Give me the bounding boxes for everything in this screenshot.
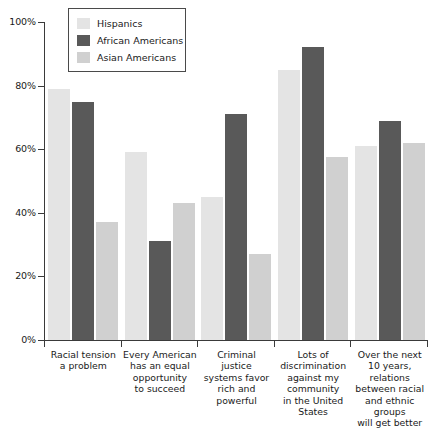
category-label-line: rich and bbox=[192, 383, 281, 394]
legend-swatch bbox=[77, 35, 90, 46]
x-axis-group-separator bbox=[121, 341, 122, 347]
bar bbox=[379, 121, 401, 340]
legend-label: African Americans bbox=[97, 35, 183, 46]
bar-group bbox=[275, 22, 352, 340]
x-axis-category-label: Over the next10 years,relationsbetween r… bbox=[345, 349, 432, 429]
category-label-line: Every American bbox=[116, 349, 205, 360]
bar bbox=[249, 254, 271, 340]
y-axis-tick bbox=[38, 276, 45, 277]
y-axis-tick-label: 20% bbox=[2, 271, 36, 281]
x-axis-end-tick bbox=[44, 341, 45, 347]
bar bbox=[96, 222, 118, 340]
x-axis-category-label: Criminaljusticesystems favorrich andpowe… bbox=[192, 349, 281, 406]
y-axis-tick bbox=[38, 149, 45, 150]
category-label-line: in the United bbox=[269, 395, 358, 406]
category-label-line: will get better bbox=[345, 417, 432, 428]
category-label-line: systems favor bbox=[192, 372, 281, 383]
category-label-line: justice bbox=[192, 360, 281, 371]
category-label-line: 10 years, bbox=[345, 360, 432, 371]
category-label-line: States bbox=[269, 406, 358, 417]
legend-item: Asian Americans bbox=[77, 49, 185, 66]
chart-legend: HispanicsAfrican AmericansAsian American… bbox=[68, 8, 186, 72]
category-label-line: to succeed bbox=[116, 383, 205, 394]
y-axis-tick-label: 60% bbox=[2, 144, 36, 154]
y-axis-tick bbox=[38, 86, 45, 87]
category-label-line: relations bbox=[345, 372, 432, 383]
x-axis-category-label: Every Americanhas an equalopportunityto … bbox=[116, 349, 205, 395]
y-axis-tick-label: 0% bbox=[2, 335, 36, 345]
category-label-line: Over the next bbox=[345, 349, 432, 360]
x-axis-line bbox=[44, 340, 428, 341]
x-axis-group-separator bbox=[350, 341, 351, 347]
legend-swatch bbox=[77, 52, 90, 63]
bar-group bbox=[351, 22, 428, 340]
legend-label: Asian Americans bbox=[97, 52, 176, 63]
bar bbox=[355, 146, 377, 340]
bar bbox=[201, 197, 223, 340]
bar bbox=[302, 47, 324, 340]
legend-swatch bbox=[77, 18, 90, 29]
bar-group bbox=[198, 22, 275, 340]
bar bbox=[125, 152, 147, 340]
bar bbox=[326, 157, 348, 340]
x-axis-category-label: Racial tensiona problem bbox=[39, 349, 128, 372]
bar bbox=[48, 89, 70, 340]
category-label-line: a problem bbox=[39, 360, 128, 371]
y-axis-tick bbox=[38, 22, 45, 23]
y-axis-tick bbox=[38, 213, 45, 214]
x-axis-category-label: Lots ofdiscriminationagainst mycommunity… bbox=[269, 349, 358, 417]
category-label-line: Racial tension bbox=[39, 349, 128, 360]
category-label-line: community bbox=[269, 383, 358, 394]
legend-item: Hispanics bbox=[77, 15, 185, 32]
category-label-line: has an equal bbox=[116, 360, 205, 371]
bar bbox=[72, 102, 94, 341]
category-label-line: opportunity bbox=[116, 372, 205, 383]
bar bbox=[149, 241, 171, 340]
category-label-line: and ethnic bbox=[345, 395, 432, 406]
category-label-line: groups bbox=[345, 406, 432, 417]
category-label-line: between racial bbox=[345, 383, 432, 394]
x-axis-group-separator bbox=[274, 341, 275, 347]
x-axis-group-separator bbox=[197, 341, 198, 347]
y-axis-tick-label: 80% bbox=[2, 81, 36, 91]
y-axis-tick-label: 40% bbox=[2, 208, 36, 218]
y-axis-tick-label: 100% bbox=[2, 17, 36, 27]
category-label-line: against my bbox=[269, 372, 358, 383]
bar bbox=[403, 143, 425, 340]
category-label-line: Lots of bbox=[269, 349, 358, 360]
legend-label: Hispanics bbox=[97, 18, 142, 29]
bar bbox=[278, 70, 300, 340]
bar bbox=[225, 114, 247, 340]
category-label-line: powerful bbox=[192, 395, 281, 406]
category-label-line: discrimination bbox=[269, 360, 358, 371]
x-axis-end-tick bbox=[427, 341, 428, 347]
category-label-line: Criminal bbox=[192, 349, 281, 360]
legend-item: African Americans bbox=[77, 32, 185, 49]
bar bbox=[173, 203, 195, 340]
bar-chart: 0%20%40%60%80%100% Racial tensiona probl… bbox=[0, 0, 432, 432]
